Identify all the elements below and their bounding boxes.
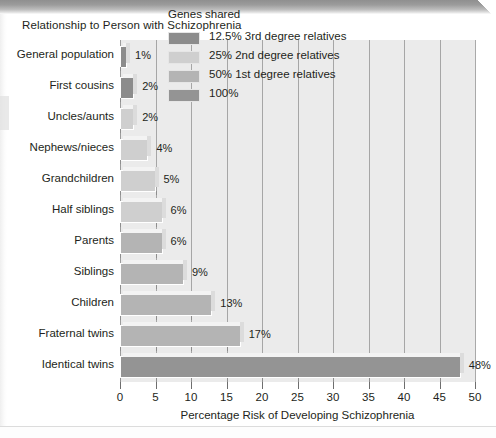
bar-baseline-tick bbox=[156, 223, 157, 227]
bar-baseline-tick bbox=[156, 191, 157, 195]
bar[interactable] bbox=[120, 232, 163, 254]
bar-row[interactable]: 13% bbox=[120, 290, 475, 318]
bar-side-face bbox=[133, 105, 137, 125]
bar-baseline-tick bbox=[120, 223, 121, 227]
x-axis-tick-label-10: 10 bbox=[185, 391, 198, 403]
bar[interactable] bbox=[120, 108, 134, 130]
x-axis-tick-5 bbox=[156, 382, 157, 389]
x-axis-tick-10 bbox=[191, 382, 192, 389]
bar-value-label: 1% bbox=[135, 49, 151, 61]
bar-baseline-tick bbox=[156, 285, 157, 289]
bar[interactable] bbox=[120, 201, 163, 223]
bar-top-face bbox=[123, 229, 166, 233]
scan-artifact-bottom-fill bbox=[0, 427, 496, 438]
x-axis-tick-40 bbox=[404, 382, 405, 389]
x-axis-tick-30 bbox=[333, 382, 334, 389]
bar-baseline-tick bbox=[120, 254, 121, 258]
x-axis-tick-label-50: 50 bbox=[469, 391, 482, 403]
bar-value-label: 13% bbox=[220, 297, 242, 309]
bar-baseline-tick bbox=[191, 316, 192, 320]
scan-artifact-top-band bbox=[0, 0, 496, 14]
legend-label: 12.5% 3rd degree relatives bbox=[209, 30, 346, 42]
legend-label: 50% 1st degree relatives bbox=[209, 68, 336, 80]
bar-baseline-tick bbox=[120, 191, 121, 195]
x-axis-tick-label-20: 20 bbox=[256, 391, 269, 403]
bar[interactable] bbox=[120, 263, 184, 285]
y-axis-category-labels: General populationFirst cousinsUncles/au… bbox=[0, 40, 114, 382]
x-axis-title: Percentage Risk of Developing Schizophre… bbox=[120, 409, 475, 421]
x-axis-tick-45 bbox=[440, 382, 441, 389]
bar-row[interactable]: 2% bbox=[120, 104, 475, 132]
bar-top-face bbox=[123, 167, 159, 171]
bar-baseline-tick bbox=[156, 347, 157, 351]
bar-baseline-tick bbox=[120, 129, 121, 133]
y-axis-label-general-population: General population bbox=[2, 48, 114, 60]
x-axis-tick-35 bbox=[369, 382, 370, 389]
x-axis-tick-label-25: 25 bbox=[291, 391, 304, 403]
x-axis-tick-label-35: 35 bbox=[362, 391, 375, 403]
x-axis-tick-50 bbox=[475, 382, 476, 389]
x-axis-tick-label-0: 0 bbox=[117, 391, 123, 403]
y-axis-label-grandchildren: Grandchildren bbox=[2, 172, 114, 184]
bar-side-face bbox=[126, 43, 130, 63]
bar-side-face bbox=[240, 322, 244, 342]
y-axis-label-half-siblings: Half siblings bbox=[2, 203, 114, 215]
bar[interactable] bbox=[120, 46, 127, 68]
x-axis-tick-label-40: 40 bbox=[398, 391, 411, 403]
legend-swatch bbox=[168, 70, 200, 83]
bar-baseline-tick bbox=[120, 67, 121, 71]
bar-row[interactable]: 5% bbox=[120, 166, 475, 194]
bar-value-label: 9% bbox=[192, 266, 208, 278]
x-axis: 05101520253035404550 bbox=[120, 382, 475, 408]
bar-side-face bbox=[460, 353, 464, 373]
bar[interactable] bbox=[120, 77, 134, 99]
bar[interactable] bbox=[120, 325, 241, 347]
x-axis-tick-0 bbox=[120, 382, 121, 389]
y-axis-label-first-cousins: First cousins bbox=[2, 79, 114, 91]
bar-side-face bbox=[211, 291, 215, 311]
y-axis-label-nephews-nieces: Nephews/nieces bbox=[2, 141, 114, 153]
bar-side-face bbox=[133, 74, 137, 94]
bar-row[interactable]: 48% bbox=[120, 352, 475, 380]
bar-value-label: 2% bbox=[142, 111, 158, 123]
bar-baseline-tick bbox=[120, 347, 121, 351]
x-axis-tick-label-15: 15 bbox=[220, 391, 233, 403]
bar-baseline-tick bbox=[120, 160, 121, 164]
bar-row[interactable]: 6% bbox=[120, 228, 475, 256]
y-axis-label-children: Children bbox=[2, 296, 114, 308]
x-axis-tick-25 bbox=[298, 382, 299, 389]
y-axis-label-identical-twins: Identical twins bbox=[2, 358, 114, 370]
bar-value-label: 48% bbox=[469, 359, 491, 371]
x-axis-tick-20 bbox=[262, 382, 263, 389]
x-axis-tick-15 bbox=[227, 382, 228, 389]
bar[interactable] bbox=[120, 139, 148, 161]
y-axis-label-parents: Parents bbox=[2, 234, 114, 246]
bar-row[interactable]: 9% bbox=[120, 259, 475, 287]
legend-swatch bbox=[168, 32, 200, 45]
gridline-50 bbox=[475, 40, 476, 382]
bar-baseline-tick bbox=[120, 98, 121, 102]
bar-baseline-tick bbox=[191, 347, 192, 351]
bar-row[interactable]: 6% bbox=[120, 197, 475, 225]
bar-side-face bbox=[162, 198, 166, 218]
legend-swatch bbox=[168, 51, 200, 64]
bar-value-label: 2% bbox=[142, 80, 158, 92]
bar-baseline-tick bbox=[156, 254, 157, 258]
bar[interactable] bbox=[120, 356, 461, 378]
legend-label: 25% 2nd degree relatives bbox=[209, 49, 339, 61]
bar-row[interactable]: 4% bbox=[120, 135, 475, 163]
bar-value-label: 4% bbox=[156, 142, 172, 154]
bar-row[interactable]: 17% bbox=[120, 321, 475, 349]
bar[interactable] bbox=[120, 294, 212, 316]
legend-title: Genes shared bbox=[168, 8, 240, 20]
bar-top-face bbox=[123, 291, 215, 295]
bar[interactable] bbox=[120, 170, 156, 192]
bar-value-label: 17% bbox=[249, 328, 271, 340]
legend-label: 100% bbox=[209, 87, 238, 99]
bar-top-face bbox=[123, 353, 464, 357]
bar-baseline-tick bbox=[120, 285, 121, 289]
legend-swatch bbox=[168, 89, 200, 102]
bar-value-label: 6% bbox=[171, 235, 187, 247]
bar-top-face bbox=[123, 260, 187, 264]
bar-baseline-tick bbox=[227, 347, 228, 351]
